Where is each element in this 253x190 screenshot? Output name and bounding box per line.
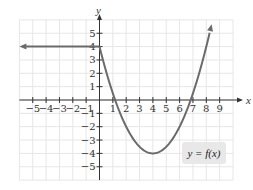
y-tick-label: −4 bbox=[81, 148, 96, 159]
x-tick-label: 9 bbox=[216, 103, 222, 114]
x-tick-label: 1 bbox=[110, 103, 116, 114]
y-tick-label: 3 bbox=[89, 54, 95, 65]
x-tick-label: 6 bbox=[176, 103, 182, 114]
y-tick-label: 1 bbox=[89, 81, 95, 92]
x-tick-label: 3 bbox=[136, 103, 142, 114]
left-arrow-icon bbox=[19, 44, 26, 50]
x-tick-label: 7 bbox=[190, 103, 196, 114]
y-tick-label: −1 bbox=[81, 108, 96, 119]
y-tick-label: −5 bbox=[81, 161, 96, 172]
function-label-text: y = f(x) bbox=[186, 147, 220, 160]
right-arrow-icon bbox=[207, 24, 213, 31]
y-tick-label: −2 bbox=[81, 121, 96, 132]
y-tick-label: 5 bbox=[89, 28, 95, 39]
y-tick-label: 2 bbox=[89, 68, 95, 79]
y-axis-label: y bbox=[95, 4, 101, 16]
x-tick-label: 4 bbox=[150, 103, 156, 114]
function-graph: xy −5−4−3−2−1123456789−5−4−3−2−112345 y … bbox=[0, 0, 253, 190]
function-curve bbox=[19, 24, 213, 153]
x-axis-label: x bbox=[245, 94, 251, 106]
x-tick-label: 8 bbox=[203, 103, 209, 114]
x-tick-label: 5 bbox=[163, 103, 169, 114]
y-tick-label: −3 bbox=[81, 135, 96, 146]
x-axis-arrow-icon bbox=[237, 98, 243, 103]
x-tick-label: 2 bbox=[123, 103, 129, 114]
function-label: y = f(x) bbox=[182, 142, 226, 164]
